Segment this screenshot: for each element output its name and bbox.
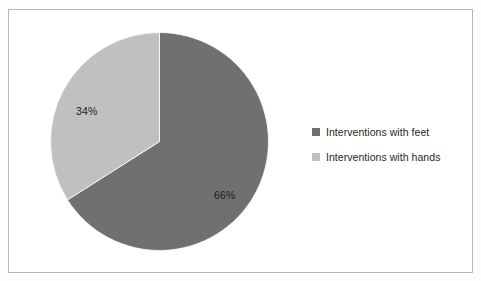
legend-item-label: Interventions with hands: [326, 151, 440, 163]
pie-slice-label-hands: 34%: [76, 105, 97, 117]
pie-svg: [50, 32, 269, 251]
legend-item-label: Interventions with feet: [326, 126, 429, 138]
square-swatch-icon: [312, 153, 320, 161]
scan-artifact-top: ........................................…: [0, 0, 481, 6]
scan-artifact-text: ........................................…: [0, 0, 481, 1]
legend-item-interventions-with-feet[interactable]: Interventions with feet: [312, 119, 472, 144]
legend-item-interventions-with-hands[interactable]: Interventions with hands: [312, 144, 472, 169]
square-swatch-icon: [312, 128, 320, 136]
pie-slices: [50, 33, 268, 251]
pie-slice-label-feet: 66%: [214, 189, 235, 201]
pie-chart: 66% 34%: [50, 32, 269, 251]
chart-page: ........................................…: [0, 0, 481, 281]
chart-legend: Interventions with feet Interventions wi…: [312, 119, 472, 169]
chart-frame: 66% 34% Interventions with feet Interven…: [8, 9, 473, 273]
plot-area: 66% 34% Interventions with feet Interven…: [9, 10, 472, 272]
